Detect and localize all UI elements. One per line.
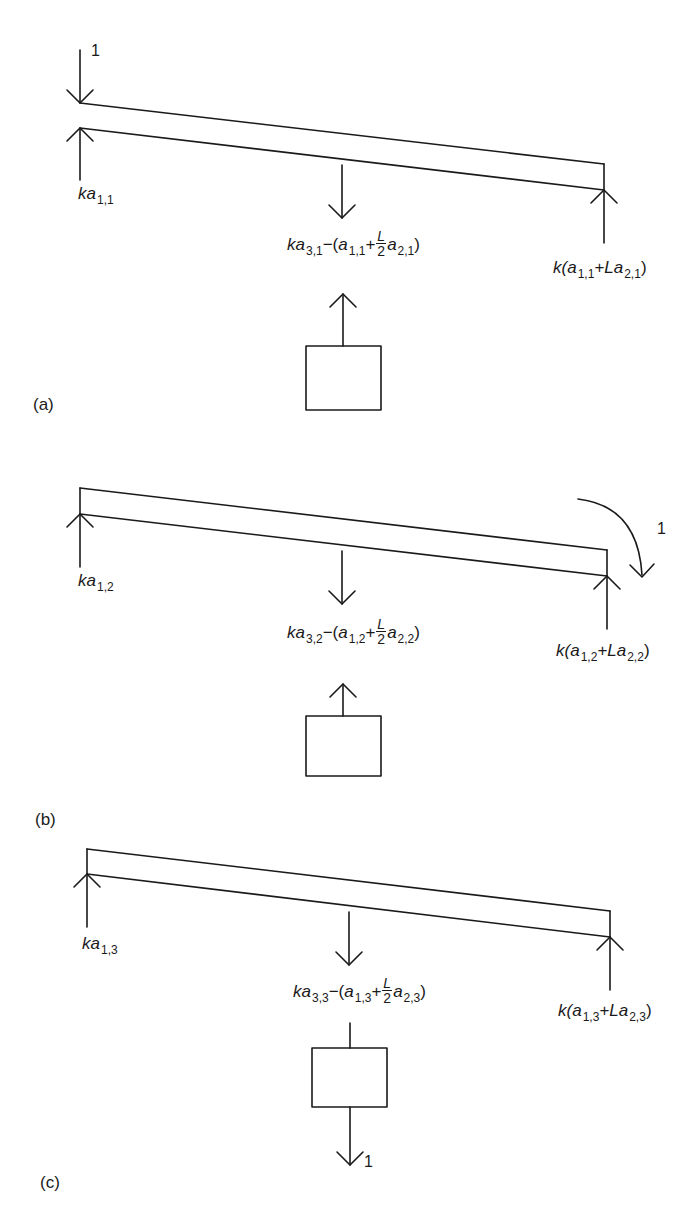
var: a bbox=[567, 258, 576, 277]
numerator: L bbox=[382, 976, 392, 991]
subscript: 1,3 bbox=[583, 1010, 600, 1024]
subscript: 3,2 bbox=[306, 632, 323, 646]
prefix: k( bbox=[556, 641, 570, 660]
numerator: L bbox=[376, 617, 386, 632]
coef: ka bbox=[78, 184, 96, 203]
beam-diagram bbox=[0, 0, 696, 1213]
right-reaction-label: k(a1,2+La2,2) bbox=[556, 642, 650, 659]
center-force-label: ka3,1−(a1,1+L2a2,1) bbox=[287, 231, 420, 261]
minus-open: −( bbox=[323, 235, 339, 254]
subscript: 2,3 bbox=[404, 991, 421, 1005]
subscript: 2,2 bbox=[627, 650, 644, 664]
fraction: L2 bbox=[376, 229, 386, 259]
mass-force-arrow-icon bbox=[330, 294, 356, 346]
coef: ka bbox=[293, 982, 311, 1001]
left-reaction-label: ka1,3 bbox=[82, 935, 118, 952]
mid: +L bbox=[594, 258, 613, 277]
right-reaction-label: k(a1,3+La2,3) bbox=[558, 1002, 652, 1019]
left-reaction-label: ka1,1 bbox=[78, 185, 114, 202]
close-paren: ) bbox=[644, 641, 650, 660]
left-reaction-arrow-icon bbox=[67, 514, 93, 567]
subscript: 2,2 bbox=[398, 632, 415, 646]
var: a bbox=[338, 235, 347, 254]
subscript: 1,3 bbox=[101, 943, 118, 957]
subscript: 1,2 bbox=[581, 650, 598, 664]
var: a bbox=[338, 623, 347, 642]
var: a bbox=[344, 982, 353, 1001]
subscript: 1,1 bbox=[578, 267, 595, 281]
close-paren: ) bbox=[414, 235, 420, 254]
mass-box bbox=[306, 346, 381, 410]
close-paren: ) bbox=[641, 258, 647, 277]
plus: + bbox=[371, 982, 381, 1001]
subscript: 1,2 bbox=[97, 580, 114, 594]
coef: ka bbox=[82, 934, 100, 953]
mid: +L bbox=[599, 1001, 618, 1020]
var: a bbox=[614, 258, 623, 277]
right-reaction-label: k(a1,1+La2,1) bbox=[553, 259, 647, 276]
numerator: L bbox=[376, 229, 386, 244]
subscript: 1,3 bbox=[355, 991, 372, 1005]
center-force-arrow-icon bbox=[336, 912, 362, 965]
panel-label-b: (b) bbox=[35, 810, 56, 830]
denominator: 2 bbox=[376, 632, 386, 647]
unit-force-arrow-icon bbox=[337, 1107, 363, 1165]
close-paren: ) bbox=[414, 623, 420, 642]
fraction: L2 bbox=[376, 617, 386, 647]
mass-force-arrow-icon bbox=[330, 684, 356, 716]
center-force-label: ka3,3−(a1,3+L2a2,3) bbox=[293, 978, 426, 1008]
subscript: 1,2 bbox=[349, 632, 366, 646]
coef: ka bbox=[287, 235, 305, 254]
panel-a-drawing bbox=[67, 50, 617, 410]
left-reaction-arrow-icon bbox=[74, 874, 100, 927]
center-force-arrow-icon bbox=[329, 165, 355, 218]
unit-moment-label: 1 bbox=[657, 520, 666, 538]
right-reaction-arrow-icon bbox=[597, 937, 623, 990]
close-paren: ) bbox=[420, 982, 426, 1001]
subscript: 2,1 bbox=[398, 244, 415, 258]
subscript: 2,1 bbox=[624, 267, 641, 281]
subscript: 2,3 bbox=[629, 1010, 646, 1024]
coef: ka bbox=[78, 571, 96, 590]
unit-moment-arrow-icon bbox=[578, 499, 654, 577]
denominator: 2 bbox=[376, 244, 386, 259]
denominator: 2 bbox=[382, 991, 392, 1006]
var: a bbox=[387, 623, 396, 642]
plus: + bbox=[365, 623, 375, 642]
subscript: 1,1 bbox=[349, 244, 366, 258]
fraction: L2 bbox=[382, 976, 392, 1006]
center-force-label: ka3,2−(a1,2+L2a2,2) bbox=[287, 619, 420, 649]
unit-force-arrow-icon bbox=[67, 50, 93, 103]
right-reaction-arrow-icon bbox=[594, 576, 620, 629]
subscript: 3,1 bbox=[306, 244, 323, 258]
minus-open: −( bbox=[323, 623, 339, 642]
minus-open: −( bbox=[329, 982, 345, 1001]
panel-label-a: (a) bbox=[33, 395, 54, 415]
panel-label-c: (c) bbox=[40, 1173, 60, 1193]
beam-b bbox=[80, 488, 607, 576]
center-force-arrow-icon bbox=[329, 551, 355, 604]
var: a bbox=[570, 641, 579, 660]
prefix: k( bbox=[553, 258, 567, 277]
mass-box bbox=[306, 716, 381, 776]
coef: ka bbox=[287, 623, 305, 642]
right-reaction-arrow-icon bbox=[591, 190, 617, 243]
left-reaction-label: ka1,2 bbox=[78, 572, 114, 589]
plus: + bbox=[365, 235, 375, 254]
unit-load-label: 1 bbox=[364, 1153, 373, 1171]
subscript: 3,3 bbox=[312, 991, 329, 1005]
var: a bbox=[387, 235, 396, 254]
var: a bbox=[572, 1001, 581, 1020]
var: a bbox=[393, 982, 402, 1001]
close-paren: ) bbox=[646, 1001, 652, 1020]
var: a bbox=[617, 641, 626, 660]
var: a bbox=[619, 1001, 628, 1020]
left-reaction-arrow-icon bbox=[67, 128, 93, 180]
subscript: 1,1 bbox=[97, 193, 114, 207]
unit-load-label: 1 bbox=[91, 42, 100, 60]
prefix: k( bbox=[558, 1001, 572, 1020]
mid: +L bbox=[597, 641, 616, 660]
mass-box bbox=[312, 1048, 387, 1107]
